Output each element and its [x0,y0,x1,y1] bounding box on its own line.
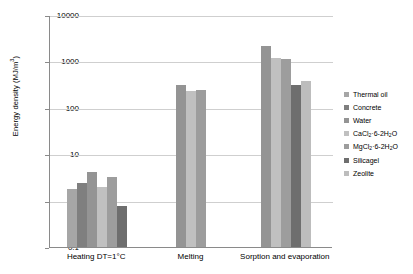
legend-swatch-icon [344,158,349,163]
legend-swatch-icon [344,92,349,97]
bar [261,46,271,247]
legend-swatch-icon [344,171,349,176]
bar [117,206,127,247]
legend-item-label: Water [353,117,371,124]
legend-item-label: Concrete [353,104,381,111]
x-axis-category-label: Sorption and evaporation [238,252,332,261]
bar [97,187,107,247]
legend-item[interactable]: Concrete [344,101,413,114]
legend-swatch-icon [344,144,349,149]
y-axis-title: Energy density (MJ/m3) [9,36,25,156]
bar-group [239,15,333,247]
bar [291,85,301,247]
legend-item[interactable]: Silicagel [344,153,413,166]
y-axis-tick-mark [45,248,49,249]
bar [271,58,281,247]
bar [67,189,77,247]
bar-group [50,15,144,247]
bar [87,172,97,247]
legend-swatch-icon [344,118,349,123]
legend-item[interactable]: Zeolite [344,167,413,180]
legend-item-label: MgCl2·6-2H2O [353,143,398,151]
legend-swatch-icon [344,131,349,136]
plot-area [49,16,332,248]
bar [301,81,311,247]
legend-swatch-icon [344,105,349,110]
legend-item[interactable]: CaCl2·6-2H2O [344,127,413,140]
bar [281,59,291,247]
x-axis-category-label: Heating DT=1°C [49,252,143,261]
legend-item[interactable]: MgCl2·6-2H2O [344,140,413,153]
bar [77,183,87,247]
chart-legend: Thermal oilConcreteWaterCaCl2·6-2H2OMgCl… [344,88,413,180]
legend-item-label: Zeolite [353,170,374,177]
chart-figure: Energy density (MJ/m3) 1000010001001010.… [0,0,413,274]
bar [196,90,206,247]
legend-item-label: Silicagel [353,157,379,164]
x-axis-category-label: Melting [143,252,237,261]
bar [107,177,117,247]
bar [186,91,196,247]
legend-item-label: Thermal oil [353,91,388,98]
bar [176,85,186,247]
legend-item[interactable]: Water [344,114,413,127]
legend-item[interactable]: Thermal oil [344,88,413,101]
bar-group [144,15,238,247]
legend-item-label: CaCl2·6-2H2O [353,130,397,138]
